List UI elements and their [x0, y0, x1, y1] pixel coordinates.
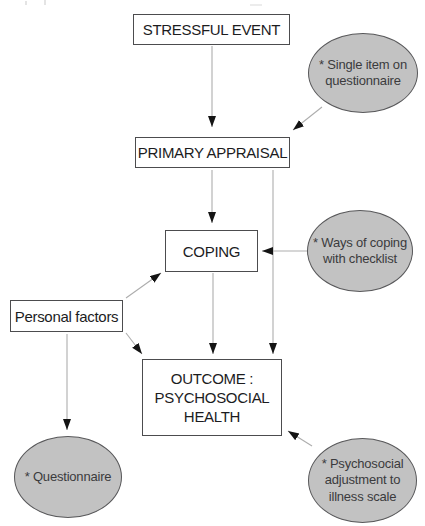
arrow-psychosocial-adjustment-to-outcome: [288, 431, 312, 446]
measure-single-item-line1: * Single item on: [319, 57, 407, 74]
node-primary-appraisal: PRIMARY APPRAISAL: [135, 137, 290, 168]
node-outcome-label-line1: OUTCOME :: [171, 369, 253, 388]
arrow-personal-factors-to-coping: [126, 273, 161, 298]
measure-single-item-line2: questionnaire: [325, 73, 400, 90]
measure-single-item-ellipse: * Single item on questionnaire: [308, 33, 418, 113]
measure-ways-of-coping-line1: * Ways of coping: [313, 235, 407, 252]
node-outcome: OUTCOME : PSYCHOSOCIAL HEALTH: [142, 359, 282, 436]
measure-psychosocial-adjustment-line2: adjustment to: [325, 472, 400, 489]
measure-questionnaire-line1: * Questionnaire: [25, 469, 112, 486]
node-personal-factors-label: Personal factors: [15, 307, 119, 326]
measure-ways-of-coping-line2: with checklist: [323, 251, 397, 268]
measure-psychosocial-adjustment-line3: illness scale: [329, 489, 397, 506]
node-coping: COPING: [165, 230, 258, 272]
node-personal-factors: Personal factors: [10, 300, 123, 332]
measure-psychosocial-adjustment-line1: * Psychosocial: [322, 456, 404, 473]
measure-psychosocial-adjustment-ellipse: * Psychosocial adjustment to illness sca…: [308, 438, 417, 523]
arrow-single-item-to-primary-appraisal: [293, 107, 322, 130]
node-primary-appraisal-label: PRIMARY APPRAISAL: [138, 143, 287, 162]
node-stressful-event: STRESSFUL EVENT: [133, 14, 290, 45]
node-coping-label: COPING: [183, 242, 240, 261]
measure-ways-of-coping-ellipse: * Ways of coping with checklist: [307, 210, 413, 292]
node-outcome-label-line2: PSYCHOSOCIAL: [155, 388, 270, 407]
measure-questionnaire-ellipse: * Questionnaire: [14, 436, 122, 518]
diagram-canvas: STRESSFUL EVENT PRIMARY APPRAISAL COPING…: [0, 0, 425, 526]
node-stressful-event-label: STRESSFUL EVENT: [143, 20, 280, 39]
node-outcome-label-line3: HEALTH: [184, 407, 240, 426]
arrow-personal-factors-to-outcome: [126, 333, 142, 354]
